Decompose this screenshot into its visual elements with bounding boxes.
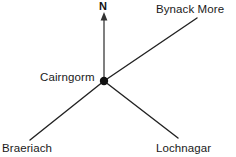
label-lochnagar: Lochnagar [156,142,211,154]
label-cairngorm: Cairngorm [40,71,95,83]
north-arrow-head-icon [101,12,108,21]
cairngorm-center-dot [100,77,108,85]
ray-to-lochnagar [104,81,178,138]
ray-to-bynack-more [104,18,197,81]
north-label: N [99,1,107,12]
bearing-diagram-canvas [0,0,236,157]
label-bynack-more: Bynack More [156,3,224,15]
bearing-diagram: N Cairngorm Bynack More Lochnagar Braeri… [0,0,236,157]
ray-to-braeriach [30,81,104,140]
label-braeriach: Braeriach [2,142,52,154]
